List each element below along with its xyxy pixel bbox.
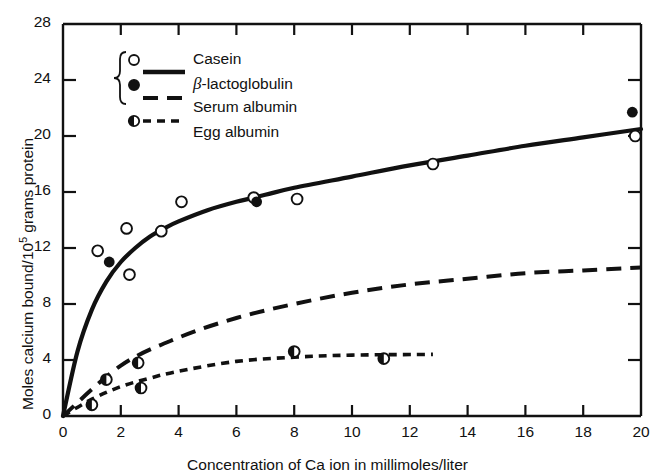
x-tick-label: 10 (327, 423, 377, 441)
data-point-open-circle (428, 159, 439, 170)
x-tick-label: 2 (96, 423, 146, 441)
curve-egg-albumin (63, 354, 433, 416)
y-tick-label: 24 (7, 69, 51, 87)
plot-canvas (0, 0, 655, 476)
data-point-half-filled-circle (101, 374, 112, 385)
y-axis-title: Moles calcium bound/105 grams protein (17, 138, 37, 410)
legend-open-circle-icon (129, 55, 139, 65)
x-tick-label: 4 (154, 423, 204, 441)
curve-casein-lactoglobulin (63, 129, 641, 416)
y-tick-label: 28 (7, 13, 51, 31)
x-axis-title: Concentration of Ca ion in millimoles/li… (0, 456, 655, 474)
legend-filled-circle-icon (129, 80, 139, 90)
x-tick-label: 14 (443, 423, 493, 441)
data-point-open-circle (121, 223, 132, 234)
curve-serum-albumin (63, 268, 641, 416)
x-tick-label: 18 (558, 423, 608, 441)
legend-label-serum-albumin: Serum albumin (193, 98, 297, 116)
data-point-filled-circle (627, 107, 638, 118)
data-point-filled-circle (104, 257, 115, 268)
data-point-half-filled-circle (86, 399, 97, 410)
data-point-half-filled-circle (136, 383, 147, 394)
legend-label-egg-albumin: Egg albumin (193, 123, 279, 141)
x-tick-label: 8 (269, 423, 319, 441)
data-point-half-filled-circle (289, 346, 300, 357)
x-tick-label: 0 (38, 423, 88, 441)
y-tick-label: 0 (7, 405, 51, 423)
axis-frame (63, 24, 641, 416)
y-axis-title-prefix: Moles calcium bound/10 (19, 243, 36, 410)
legend-brace-icon (114, 52, 126, 104)
legend-label-casein: Casein (193, 50, 241, 68)
data-point-open-circle (630, 131, 641, 142)
data-points-egg-albumin (86, 346, 389, 410)
x-tick-label: 20 (616, 423, 655, 441)
legend-half-filled-circle-icon (129, 116, 139, 126)
legend-label-lactoglobulin: β-lactoglobulin (193, 74, 293, 94)
data-point-open-circle (292, 194, 303, 205)
y-tick-label: 12 (7, 237, 51, 255)
data-point-open-circle (176, 196, 187, 207)
x-tick-marks (121, 24, 583, 416)
y-tick-label: 16 (7, 181, 51, 199)
data-point-open-circle (156, 226, 167, 237)
legend-label-lactoglobulin-text: -lactoglobulin (201, 75, 292, 92)
y-tick-label: 4 (7, 349, 51, 367)
x-tick-label: 12 (385, 423, 435, 441)
data-point-filled-circle (251, 196, 262, 207)
chart-figure: Casein β-lactoglobulin Serum albumin Egg… (0, 0, 655, 476)
legend-glyphs (114, 52, 185, 126)
x-tick-label: 16 (500, 423, 550, 441)
data-points-casein (92, 131, 640, 280)
data-point-half-filled-circle (378, 353, 389, 364)
x-tick-label: 6 (211, 423, 261, 441)
data-point-half-filled-circle (133, 357, 144, 368)
data-point-open-circle (124, 269, 135, 280)
data-points-lactoglobulin (104, 107, 638, 268)
y-tick-label: 20 (7, 125, 51, 143)
y-tick-label: 8 (7, 293, 51, 311)
data-point-open-circle (92, 245, 103, 256)
